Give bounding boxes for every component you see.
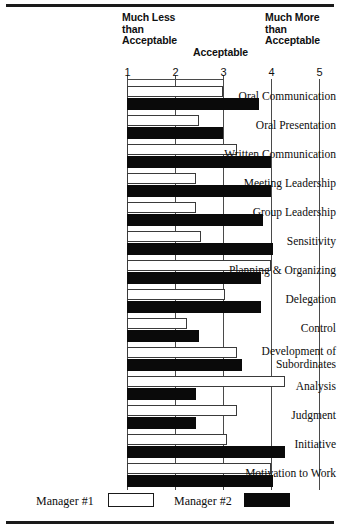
category-label: Judgment	[222, 409, 340, 422]
category-label: Written Communication	[222, 148, 340, 161]
bar-manager-1	[127, 347, 237, 359]
legend-label-manager-1: Manager #1	[36, 494, 94, 509]
legend-swatch-manager-2	[244, 493, 290, 507]
x-axis-tick-label-1: 1	[125, 66, 141, 78]
x-axis-tick-label-2: 2	[173, 66, 189, 78]
bar-manager-1	[127, 289, 225, 301]
chart-legend: Manager #1 Manager #2	[0, 492, 340, 516]
bar-manager-1	[127, 115, 199, 127]
x-axis-tick-label-3: 3	[221, 66, 237, 78]
bar-manager-2	[127, 127, 223, 139]
bar-manager-1	[127, 86, 223, 98]
bar-manager-2	[127, 417, 197, 429]
bar-manager-2	[127, 330, 199, 342]
bar-manager-1	[127, 231, 201, 243]
legend-swatch-manager-1	[108, 493, 154, 507]
category-label: Initiative	[222, 438, 340, 451]
category-label: Control	[222, 322, 340, 335]
gridline-3	[223, 79, 224, 490]
bar-manager-1	[127, 318, 187, 330]
bar-manager-1	[127, 405, 237, 417]
gridline-4	[271, 79, 272, 490]
x-axis-tick-label-4: 4	[269, 66, 285, 78]
category-label: Delegation	[222, 293, 340, 306]
category-label: Analysis	[222, 380, 340, 393]
x-axis-tick-label-5: 5	[317, 66, 333, 78]
gridline-5	[319, 79, 320, 490]
bar-manager-2	[127, 388, 197, 400]
competency-bar-chart: Much Less than Acceptable Acceptable Muc…	[0, 0, 340, 532]
bar-manager-1	[127, 434, 228, 446]
legend-label-manager-2: Manager #2	[174, 494, 232, 509]
bar-manager-1	[127, 202, 197, 214]
category-label: Meeting Leadership	[222, 177, 340, 190]
category-label: Planning & Organizing	[222, 264, 340, 277]
category-label: Motivation to Work	[222, 467, 340, 480]
bar-manager-1	[127, 144, 237, 156]
category-label: Sensitivity	[222, 235, 340, 248]
category-label: Development of Subordinates	[222, 345, 340, 370]
bar-manager-1	[127, 173, 197, 185]
category-label: Oral Presentation	[222, 119, 340, 132]
category-label: Oral Communication	[222, 90, 340, 103]
category-label: Group Leadership	[222, 206, 340, 219]
